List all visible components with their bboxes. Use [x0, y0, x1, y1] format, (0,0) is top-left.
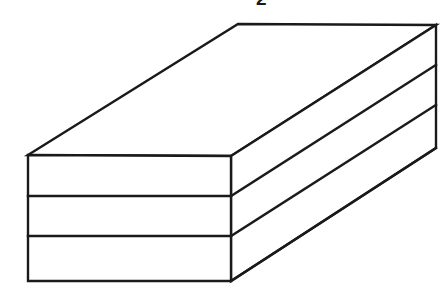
cuboid-front-face	[28, 155, 231, 281]
figure-canvas: 2	[0, 0, 447, 298]
dimension-label-depth: 2	[256, 0, 267, 8]
cuboid-diagram	[0, 0, 447, 298]
